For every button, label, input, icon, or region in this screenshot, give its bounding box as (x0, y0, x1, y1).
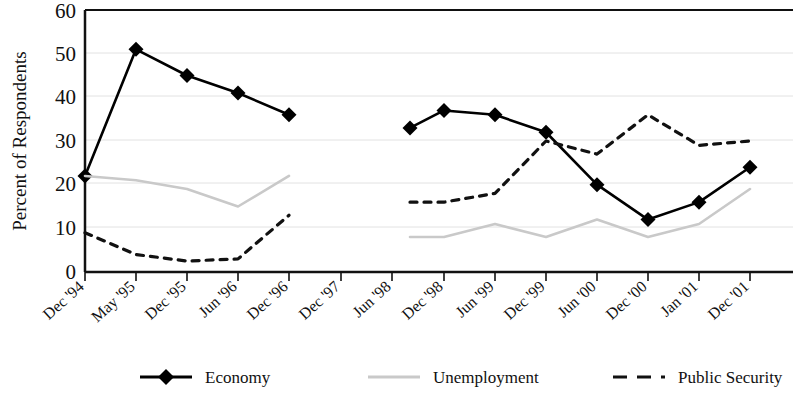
diamond-marker-icon (158, 369, 174, 385)
x-tick-marks (85, 272, 750, 281)
x-tick-label: Dec '99 (500, 278, 548, 323)
legend-label-economy: Economy (205, 368, 271, 387)
y-tick-label: 60 (55, 0, 76, 23)
x-tick-label: Jun '99 (452, 278, 497, 321)
x-tick-label: Jun '00 (554, 278, 599, 321)
y-axis-title: Percent of Respondents (9, 51, 30, 230)
x-tick-label: Dec '01 (704, 278, 752, 323)
y-tick-label: 10 (55, 216, 76, 240)
legend-label-unemployment: Unemployment (433, 368, 539, 387)
x-tick-label: Jun '96 (195, 278, 240, 321)
legend-label-public-security: Public Security (678, 368, 783, 387)
x-tick-label: Jun '98 (349, 278, 394, 321)
chart-legend: Economy Unemployment Public Security (140, 368, 783, 387)
chart-container: 60 50 40 30 20 10 0 Percent of Responden… (0, 0, 798, 395)
legend-item-economy[interactable]: Economy (140, 368, 271, 387)
y-tick-label: 50 (55, 42, 76, 66)
x-tick-label: Dec '98 (398, 278, 446, 323)
legend-item-unemployment[interactable]: Unemployment (368, 368, 539, 387)
plot-background (85, 10, 793, 272)
x-tick-label: Dec '00 (602, 278, 650, 323)
y-tick-label: 20 (55, 172, 76, 196)
x-tick-label: Jan '01 (657, 278, 701, 320)
y-tick-labels: 60 50 40 30 20 10 0 (55, 0, 76, 284)
x-tick-labels: Dec '94 May '95 Dec '95 Jun '96 Dec '96 … (39, 278, 752, 326)
y-tick-label: 40 (55, 85, 76, 109)
x-tick-label: Dec '94 (39, 278, 87, 323)
y-tick-label: 30 (55, 129, 76, 153)
line-chart: 60 50 40 30 20 10 0 Percent of Responden… (0, 0, 798, 395)
x-tick-label: Dec '96 (243, 278, 291, 323)
x-tick-label: Dec '95 (141, 278, 189, 323)
x-tick-label: May '95 (88, 278, 139, 326)
legend-item-public-security[interactable]: Public Security (613, 368, 783, 387)
x-tick-label: Dec '97 (295, 278, 343, 323)
